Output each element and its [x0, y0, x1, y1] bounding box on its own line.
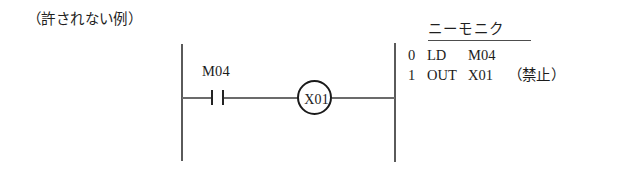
mnemonic-table-title: ニーモニク [408, 20, 613, 39]
mnemonic-note: （禁止） [508, 65, 565, 85]
rung-segment-rail-to-contact [182, 97, 212, 99]
contact-bar-left-icon [211, 90, 213, 105]
left-power-rail [181, 44, 183, 161]
rung-segment-contact-to-coil [224, 97, 298, 99]
mnemonic-table: ニーモニク 0 LD M04 1 OUT X01 （禁止） [408, 20, 613, 85]
mnemonic-row-list: 0 LD M04 1 OUT X01 （禁止） [408, 45, 613, 85]
contact-label-m04: M04 [202, 63, 230, 80]
contact-bar-right-icon [222, 90, 224, 105]
right-power-rail [394, 43, 396, 162]
mnemonic-title-underline [428, 40, 531, 41]
mnemonic-instruction: OUT [427, 65, 468, 85]
ladder-diagram-figure: （許されない例） M04 X01 ニーモニク 0 LD M04 1 OUT [0, 0, 619, 169]
table-row: 1 OUT X01 （禁止） [408, 65, 613, 85]
mnemonic-step-number: 1 [408, 65, 427, 85]
mnemonic-instruction: LD [427, 45, 468, 65]
output-coil-icon: X01 [297, 80, 332, 115]
mnemonic-operand: M04 [468, 45, 508, 65]
coil-label-x01: X01 [299, 82, 334, 117]
table-row: 0 LD M04 [408, 45, 613, 65]
rung-segment-coil-to-rail [332, 97, 395, 99]
mnemonic-operand: X01 [468, 65, 508, 85]
mnemonic-step-number: 0 [408, 45, 427, 65]
